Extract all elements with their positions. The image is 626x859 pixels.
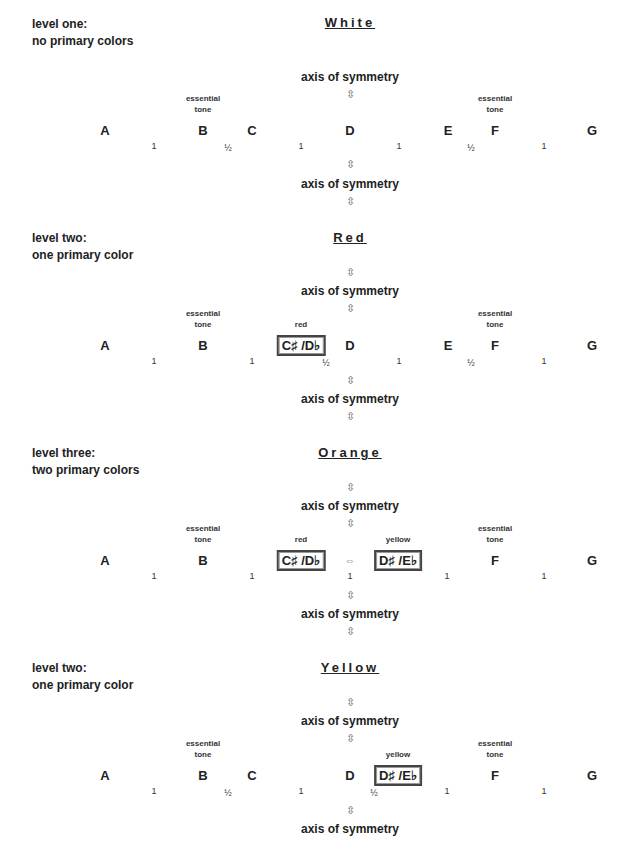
note-c-sharp-d-flat-box: C♯ /D♭ [277, 550, 326, 571]
interval: 1 [298, 786, 303, 796]
axis-label-bottom: axis of symmetry [0, 177, 626, 191]
interval: 1 [298, 141, 303, 151]
vertical-arrow-icon: ⇳ [0, 625, 626, 638]
section-title: Yellow [0, 660, 626, 675]
interval: ½ [467, 143, 475, 153]
note-c-sharp-d-flat-box: C♯ /D♭ [277, 335, 326, 356]
vertical-arrow-icon: ⇳ [0, 804, 626, 817]
note-d: D [345, 768, 354, 783]
color-label-red: red [295, 534, 307, 545]
interval: 1 [541, 141, 546, 151]
interval: 1 [541, 571, 546, 581]
interval: 1 [151, 141, 156, 151]
vertical-arrow-icon: ⇳ [0, 589, 626, 602]
note-g: G [587, 123, 597, 138]
note-d: D [345, 123, 354, 138]
section-title: White [0, 15, 626, 30]
color-label-red: red [295, 319, 307, 330]
vertical-arrow-icon: ⇳ [0, 302, 626, 315]
axis-label-bottom: axis of symmetry [0, 607, 626, 621]
vertical-arrow-icon: ⇳ [0, 266, 626, 279]
vertical-arrow-icon: ⇳ [0, 732, 626, 745]
note-c: C [247, 123, 256, 138]
essential-tone-label: essentialtone [186, 308, 220, 330]
interval: ½ [224, 788, 232, 798]
horizontal-arrow-icon: ⇔ [345, 554, 356, 566]
interval: 1 [444, 571, 449, 581]
note-g: G [587, 768, 597, 783]
note-c: C [247, 768, 256, 783]
axis-label-bottom: axis of symmetry [0, 822, 626, 836]
interval: ½ [224, 143, 232, 153]
note-f: F [491, 553, 499, 568]
interval: 1 [444, 786, 449, 796]
section-white: level one: no primary colors White axis … [0, 0, 626, 215]
section-title: Orange [0, 445, 626, 460]
interval: 1 [541, 786, 546, 796]
interval: ½ [370, 788, 378, 798]
section-red: level two: one primary color Red ⇳ axis … [0, 220, 626, 430]
vertical-arrow-icon: ⇳ [0, 517, 626, 530]
note-b: B [198, 553, 207, 568]
essential-tone-label: essentialtone [186, 93, 220, 115]
interval: 1 [541, 356, 546, 366]
note-e: E [444, 123, 453, 138]
essential-tone-label: essentialtone [186, 738, 220, 760]
note-e: E [444, 338, 453, 353]
vertical-arrow-icon: ⇳ [0, 158, 626, 171]
note-f: F [491, 123, 499, 138]
essential-tone-label: essentialtone [478, 308, 512, 330]
interval: 1 [151, 571, 156, 581]
section-title: Red [0, 230, 626, 245]
axis-label-bottom: axis of symmetry [0, 392, 626, 406]
note-f: F [491, 338, 499, 353]
interval: 1 [249, 571, 254, 581]
color-label-yellow: yellow [386, 534, 410, 545]
note-a: A [100, 123, 109, 138]
essential-tone-label: essentialtone [186, 523, 220, 545]
interval: 1 [347, 571, 352, 581]
vertical-arrow-icon: ⇳ [0, 88, 626, 101]
note-b: B [198, 338, 207, 353]
vertical-arrow-icon: ⇳ [0, 481, 626, 494]
interval: 1 [396, 141, 401, 151]
interval: 1 [396, 356, 401, 366]
vertical-arrow-icon: ⇳ [0, 374, 626, 387]
interval: 1 [151, 786, 156, 796]
note-g: G [587, 338, 597, 353]
vertical-arrow-icon: ⇳ [0, 195, 626, 208]
axis-label-top: axis of symmetry [0, 284, 626, 298]
note-g: G [587, 553, 597, 568]
note-a: A [100, 338, 109, 353]
note-a: A [100, 553, 109, 568]
note-f: F [491, 768, 499, 783]
axis-label-top: axis of symmetry [0, 714, 626, 728]
level-line-2: one primary color [32, 677, 133, 694]
axis-label-top: axis of symmetry [0, 70, 626, 84]
axis-label-top: axis of symmetry [0, 499, 626, 513]
vertical-arrow-icon: ⇳ [0, 696, 626, 709]
color-label-yellow: yellow [386, 749, 410, 760]
note-d: D [345, 338, 354, 353]
interval: 1 [249, 356, 254, 366]
vertical-arrow-icon: ⇳ [0, 410, 626, 423]
essential-tone-label: essentialtone [478, 738, 512, 760]
section-orange: level three: two primary colors Orange ⇳… [0, 435, 626, 645]
note-b: B [198, 768, 207, 783]
note-d-sharp-e-flat-box: D♯ /E♭ [374, 765, 422, 786]
interval: 1 [151, 356, 156, 366]
level-line-2: two primary colors [32, 462, 139, 479]
interval: ½ [467, 358, 475, 368]
interval: ½ [322, 358, 330, 368]
note-d-sharp-e-flat-box: D♯ /E♭ [374, 550, 422, 571]
section-yellow: level two: one primary color Yellow ⇳ ax… [0, 650, 626, 859]
essential-tone-label: essentialtone [478, 93, 512, 115]
note-b: B [198, 123, 207, 138]
note-a: A [100, 768, 109, 783]
essential-tone-label: essentialtone [478, 523, 512, 545]
level-line-2: one primary color [32, 247, 133, 264]
level-line-2: no primary colors [32, 33, 133, 50]
